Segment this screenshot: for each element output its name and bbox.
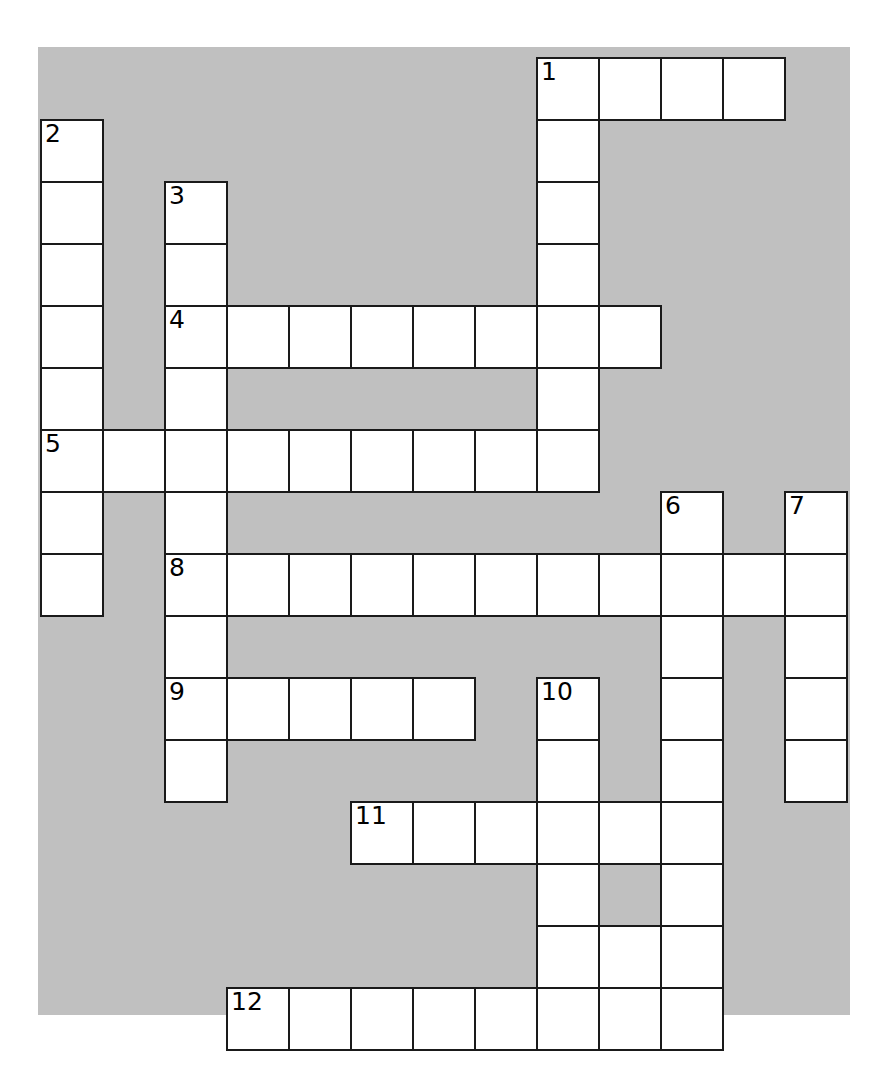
crossword-cell[interactable]	[288, 305, 352, 369]
crossword-cell[interactable]	[350, 553, 414, 617]
crossword-cell[interactable]	[536, 181, 600, 245]
crossword-cell[interactable]	[226, 553, 290, 617]
crossword-cell[interactable]	[536, 243, 600, 307]
crossword-cell[interactable]	[412, 987, 476, 1051]
crossword-cell[interactable]	[164, 243, 228, 307]
crossword-cell-numbered-1[interactable]: 1	[536, 57, 600, 121]
crossword-cell[interactable]	[288, 429, 352, 493]
crossword-cell[interactable]	[164, 491, 228, 555]
crossword-cell[interactable]	[536, 305, 600, 369]
crossword-cell-numbered-7[interactable]: 7	[784, 491, 848, 555]
crossword-cell-numbered-9[interactable]: 9	[164, 677, 228, 741]
crossword-cell[interactable]	[536, 925, 600, 989]
crossword-cell[interactable]	[536, 367, 600, 431]
clue-number: 2	[45, 121, 61, 147]
crossword-cell[interactable]	[660, 987, 724, 1051]
crossword-cell[interactable]	[412, 801, 476, 865]
crossword-cell[interactable]	[350, 677, 414, 741]
crossword-cell-numbered-5[interactable]: 5	[40, 429, 104, 493]
crossword-cell[interactable]	[474, 429, 538, 493]
crossword-cell[interactable]	[350, 305, 414, 369]
crossword-cell[interactable]	[164, 367, 228, 431]
crossword-cell[interactable]	[40, 367, 104, 431]
crossword-cell[interactable]	[288, 677, 352, 741]
clue-number: 10	[541, 679, 573, 705]
crossword-cell-numbered-11[interactable]: 11	[350, 801, 414, 865]
crossword-cell-numbered-10[interactable]: 10	[536, 677, 600, 741]
crossword-cell[interactable]	[598, 305, 662, 369]
crossword-cell[interactable]	[536, 863, 600, 927]
crossword-cell[interactable]	[660, 863, 724, 927]
crossword-cell-numbered-4[interactable]: 4	[164, 305, 228, 369]
crossword-cell-numbered-6[interactable]: 6	[660, 491, 724, 555]
crossword-cell[interactable]	[164, 739, 228, 803]
crossword-cell[interactable]	[40, 305, 104, 369]
crossword-cell[interactable]	[226, 305, 290, 369]
crossword-cell[interactable]	[722, 57, 786, 121]
crossword-cell[interactable]	[412, 305, 476, 369]
crossword-cell[interactable]	[660, 925, 724, 989]
crossword-cell[interactable]	[164, 615, 228, 679]
crossword-cell[interactable]	[412, 553, 476, 617]
crossword-cell[interactable]	[784, 677, 848, 741]
clue-number: 12	[231, 989, 263, 1015]
crossword-cell[interactable]	[536, 801, 600, 865]
crossword-cell[interactable]	[102, 429, 166, 493]
crossword-cell[interactable]	[474, 801, 538, 865]
crossword-cell-numbered-12[interactable]: 12	[226, 987, 290, 1051]
crossword-cell[interactable]	[412, 429, 476, 493]
crossword-cell[interactable]	[784, 615, 848, 679]
clue-number: 1	[541, 59, 557, 85]
crossword-cell[interactable]	[598, 553, 662, 617]
clue-number: 3	[169, 183, 185, 209]
crossword-cell[interactable]	[40, 491, 104, 555]
crossword-cell-numbered-2[interactable]: 2	[40, 119, 104, 183]
clue-number: 4	[169, 307, 185, 333]
crossword-cell[interactable]	[660, 739, 724, 803]
crossword-cell[interactable]	[536, 119, 600, 183]
crossword-cell[interactable]	[40, 243, 104, 307]
clue-number: 6	[665, 493, 681, 519]
crossword-cell[interactable]	[164, 429, 228, 493]
crossword-cell[interactable]	[536, 987, 600, 1051]
crossword-cell[interactable]	[784, 739, 848, 803]
crossword-cell[interactable]	[660, 553, 724, 617]
crossword-cell[interactable]	[660, 801, 724, 865]
crossword-cell[interactable]	[536, 739, 600, 803]
crossword-cell[interactable]	[226, 677, 290, 741]
clue-number: 5	[45, 431, 61, 457]
crossword-cell[interactable]	[722, 553, 786, 617]
crossword-cell[interactable]	[40, 553, 104, 617]
clue-number: 8	[169, 555, 185, 581]
crossword-cell[interactable]	[474, 987, 538, 1051]
crossword-cell[interactable]	[412, 677, 476, 741]
crossword-cell[interactable]	[474, 305, 538, 369]
crossword-cell[interactable]	[784, 553, 848, 617]
crossword-cell-layer: 123456789101112	[0, 0, 890, 1070]
crossword-cell[interactable]	[660, 677, 724, 741]
crossword-cell[interactable]	[598, 987, 662, 1051]
crossword-cell[interactable]	[40, 181, 104, 245]
crossword-cell-numbered-3[interactable]: 3	[164, 181, 228, 245]
crossword-puzzle: 123456789101112	[0, 0, 890, 1070]
crossword-cell-numbered-8[interactable]: 8	[164, 553, 228, 617]
crossword-cell[interactable]	[598, 801, 662, 865]
clue-number: 11	[355, 803, 387, 829]
clue-number: 7	[789, 493, 805, 519]
crossword-cell[interactable]	[536, 553, 600, 617]
crossword-cell[interactable]	[536, 429, 600, 493]
clue-number: 9	[169, 679, 185, 705]
crossword-cell[interactable]	[350, 429, 414, 493]
crossword-cell[interactable]	[598, 57, 662, 121]
crossword-cell[interactable]	[350, 987, 414, 1051]
crossword-cell[interactable]	[660, 57, 724, 121]
crossword-cell[interactable]	[474, 553, 538, 617]
crossword-cell[interactable]	[660, 615, 724, 679]
crossword-cell[interactable]	[226, 429, 290, 493]
crossword-cell[interactable]	[598, 925, 662, 989]
crossword-cell[interactable]	[288, 553, 352, 617]
crossword-cell[interactable]	[288, 987, 352, 1051]
